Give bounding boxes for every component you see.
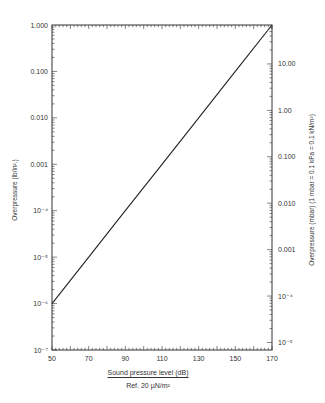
svg-text:90: 90 (121, 355, 129, 362)
chart-canvas: 5070901101301501701.0000.1000.0100.00110… (0, 0, 325, 403)
svg-text:10⁻⁷: 10⁻⁷ (34, 347, 49, 354)
svg-text:10⁻⁴: 10⁻⁴ (33, 207, 48, 214)
svg-text:150: 150 (229, 355, 241, 362)
plot-frame (52, 25, 272, 350)
svg-text:0.001: 0.001 (30, 161, 48, 168)
data-line (52, 25, 272, 304)
x-axis-subtitle: Ref. 20 µN/m² (126, 382, 170, 389)
svg-text:170: 170 (266, 355, 278, 362)
svg-text:10⁻⁵: 10⁻⁵ (278, 339, 293, 346)
svg-text:0.100: 0.100 (30, 68, 48, 75)
y-axis-title-right: Overpressure (mbar) (1 mbar = 0.1 kPa = … (308, 114, 315, 266)
y-axis-title-left: Overpressure (lb/in².) (11, 159, 18, 220)
x-axis-title: Sound pressure level (dB) (108, 369, 189, 378)
svg-text:1.00: 1.00 (278, 107, 292, 114)
svg-text:10.00: 10.00 (278, 60, 296, 67)
axis-ticks (52, 25, 272, 350)
svg-text:70: 70 (85, 355, 93, 362)
svg-text:130: 130 (193, 355, 205, 362)
svg-text:0.010: 0.010 (30, 114, 48, 121)
tick-labels: 5070901101301501701.0000.1000.0100.00110… (30, 22, 295, 363)
svg-text:10⁻⁶: 10⁻⁶ (33, 300, 48, 307)
svg-text:1.000: 1.000 (30, 22, 48, 29)
svg-text:10⁻⁴: 10⁻⁴ (278, 293, 293, 300)
svg-text:10⁻⁵: 10⁻⁵ (33, 254, 48, 261)
svg-text:0.100: 0.100 (278, 153, 296, 160)
svg-text:0.001: 0.001 (278, 246, 296, 253)
svg-text:0.010: 0.010 (278, 200, 296, 207)
svg-text:110: 110 (156, 355, 167, 362)
svg-text:50: 50 (48, 355, 56, 362)
